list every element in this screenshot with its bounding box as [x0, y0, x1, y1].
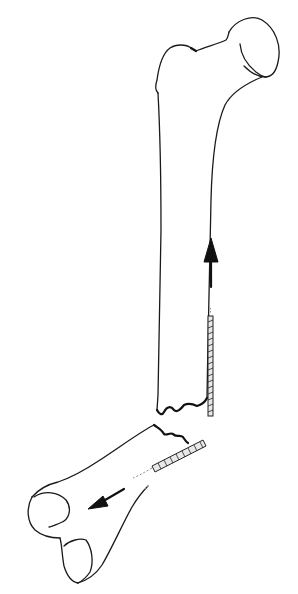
femur-fracture-illustration — [0, 0, 298, 594]
illustration-canvas — [0, 0, 298, 594]
arrow-up — [204, 238, 218, 287]
distal-pin — [133, 440, 206, 478]
proximal-pin — [208, 308, 213, 416]
distal-femur-fragment — [28, 425, 188, 583]
arrow-down-left — [88, 489, 124, 509]
proximal-femur-fragment — [156, 18, 280, 415]
